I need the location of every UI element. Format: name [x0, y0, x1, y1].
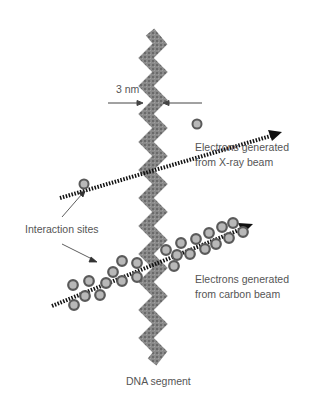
xray-label-line1: Electrons generated: [195, 140, 289, 155]
width-label: 3 nm: [116, 82, 139, 97]
electron: [80, 180, 89, 189]
interaction-label: Interaction sites: [25, 222, 99, 237]
diagram-canvas: [0, 0, 312, 402]
carbon-label: Electrons generated from carbon beam: [195, 272, 289, 302]
xray-label: Electrons generated from X-ray beam: [195, 140, 289, 170]
xray-label-line2: from X-ray beam: [195, 155, 289, 170]
carbon-label-line2: from carbon beam: [195, 287, 289, 302]
dna-strand: [146, 32, 160, 362]
carbon-label-line1: Electrons generated: [195, 272, 289, 287]
electron: [193, 120, 202, 129]
dna-label: DNA segment: [126, 374, 191, 389]
